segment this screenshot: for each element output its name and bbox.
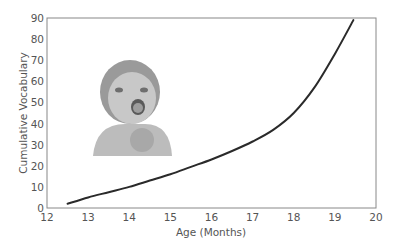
y-tick-label: 70 — [31, 54, 44, 66]
y-tick-label: 30 — [31, 139, 44, 151]
plot-frame — [47, 18, 376, 208]
y-tick-label: 20 — [31, 160, 44, 172]
x-tick-label: 16 — [205, 211, 219, 223]
x-tick-label: 20 — [369, 211, 382, 223]
y-tick-label: 90 — [31, 12, 44, 24]
x-axis-label: Age (Months) — [176, 226, 246, 238]
x-tick-label: 12 — [40, 211, 53, 223]
x-tick-label: 18 — [287, 211, 300, 223]
x-tick-label: 13 — [81, 211, 94, 223]
baby-photo — [93, 60, 172, 156]
x-tick-label: 17 — [246, 211, 259, 223]
x-tick-label: 14 — [123, 211, 137, 223]
x-tick-label: 19 — [328, 211, 341, 223]
vocabulary-chart: 0102030405060708090121314151617181920 Cu… — [0, 0, 398, 251]
x-tick-label: 15 — [164, 211, 177, 223]
y-axis-label: Cumulative Vocabulary — [17, 52, 29, 173]
y-tick-label: 50 — [31, 96, 44, 108]
y-tick-label: 60 — [31, 75, 44, 87]
y-tick-label: 40 — [31, 118, 44, 130]
y-tick-label: 10 — [31, 181, 44, 193]
y-tick-label: 80 — [31, 33, 44, 45]
